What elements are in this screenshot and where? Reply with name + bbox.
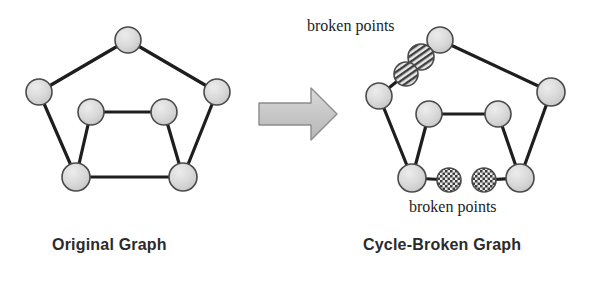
original-graph-node-inner-top-right <box>151 99 177 125</box>
cycle-broken-graph-edge <box>440 40 551 92</box>
cycle-broken-graph-node-inner-top-left <box>416 101 442 127</box>
original-graph-edges <box>39 40 217 177</box>
figure-container: broken points broken points Original Gra… <box>0 0 609 281</box>
cycle-broken-graph-node-bottom-left <box>398 164 426 192</box>
transformation-arrow <box>259 88 337 140</box>
cycle-broken-graph-node-inner-top-right <box>485 101 511 127</box>
original-graph-edge <box>128 40 217 92</box>
broken-points-label-top: broken points <box>307 17 395 35</box>
cycle-broken-graph-edges <box>379 40 551 180</box>
caption-cycle-broken-graph: Cycle-Broken Graph <box>363 236 521 254</box>
caption-original-graph: Original Graph <box>52 236 167 254</box>
cycle-broken-graph-node-broken-point-bottom-right <box>472 168 496 192</box>
original-graph-node-inner-top-left <box>78 99 104 125</box>
cycle-broken-graph-node-broken-point-bottom-left <box>437 168 461 192</box>
original-graph-node-top <box>115 27 141 53</box>
original-graph-edge <box>39 40 128 92</box>
original-graph-node-bottom-right <box>169 163 197 191</box>
original-graph-nodes <box>26 27 230 191</box>
cycle-broken-graph-node-broken-point-top-left <box>394 62 418 86</box>
arrow-shape <box>259 88 337 140</box>
broken-points-label-bottom: broken points <box>409 198 497 216</box>
cycle-broken-graph-node-right <box>537 78 565 106</box>
original-graph-node-bottom-left <box>62 163 90 191</box>
cycle-broken-graph-node-left <box>366 83 392 109</box>
cycle-broken-graph-node-bottom-right <box>506 164 534 192</box>
original-graph-node-right <box>204 79 230 105</box>
original-graph-node-left <box>26 79 52 105</box>
